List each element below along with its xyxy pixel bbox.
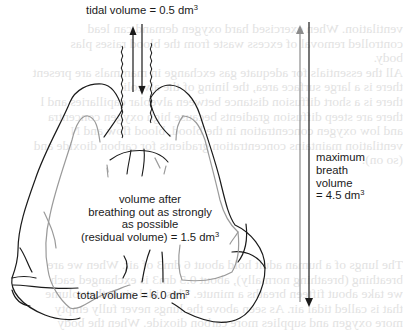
maximum-breath-arrows [296, 22, 313, 307]
tidal-volume-arrows [130, 24, 146, 95]
residual-value-text: (residual volume) = 1.5 dm [81, 231, 215, 243]
bronchus-inner-marks [107, 166, 166, 177]
max-breath-line-1: maximum [316, 151, 365, 164]
max-breath-value-text: = 4.5 dm [316, 189, 360, 201]
residual-volume-label: volume after breathing out as strongly a… [70, 193, 230, 243]
trachea-left-wall [121, 46, 123, 138]
tidal-volume-unit-sup: 3 [194, 3, 198, 12]
residual-line-2: breathing out as strongly [70, 206, 230, 219]
arrow-down-icon [139, 86, 146, 95]
arrow-down-icon [305, 298, 313, 307]
residual-line-4: (residual volume) = 1.5 dm3 [70, 231, 230, 244]
max-breath-line-2: breath [316, 164, 365, 177]
tidal-volume-text: tidal volume = 0.5 dm [86, 4, 194, 16]
arrow-up-icon [130, 26, 137, 35]
tidal-volume-label: tidal volume = 0.5 dm3 [86, 4, 198, 17]
right-lung-medial [150, 100, 170, 136]
arrow-up-icon [296, 25, 304, 34]
total-volume-text: total volume = 6.0 dm [77, 289, 185, 301]
bronchus-arc [110, 151, 168, 163]
trachea-right-wall [150, 43, 152, 123]
trachea [121, 43, 152, 138]
max-breath-unit-sup: 3 [360, 188, 364, 197]
residual-line-1: volume after [70, 193, 230, 206]
left-lung-medial [104, 110, 122, 137]
max-breath-line-4: = 4.5 dm3 [316, 189, 365, 202]
maximum-breath-volume-label: maximum breath volume = 4.5 dm3 [316, 151, 365, 202]
residual-line-3: as possible [70, 218, 230, 231]
textbook-page: ventilation. When exercised hard oxygen … [0, 0, 413, 332]
max-breath-line-3: volume [316, 177, 365, 190]
residual-unit-sup: 3 [215, 230, 219, 239]
bronchi-arc [110, 149, 168, 176]
total-volume-unit-sup: 3 [185, 288, 189, 297]
total-volume-label: total volume = 6.0 dm3 [77, 289, 190, 302]
